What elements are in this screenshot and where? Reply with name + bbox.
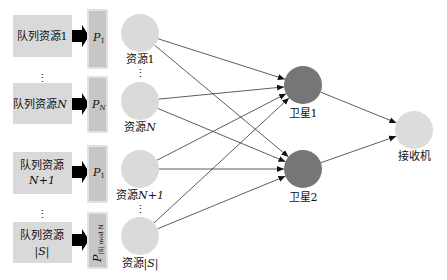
vertical-ellipsis-icon: ⋮: [135, 67, 146, 80]
resource-circle: [121, 150, 159, 188]
edge-s2-to-rx: [321, 136, 396, 162]
queue-label: 队列资源1: [17, 29, 68, 43]
power-box-1: P1: [88, 10, 107, 68]
satellite-label: 卫星2: [289, 191, 318, 204]
resource-ellipsis-1: ⋮: [135, 67, 146, 80]
resource-circle: [121, 14, 159, 52]
resource-node-n: 资源N: [121, 82, 159, 134]
queue-label-line2: N+1: [28, 174, 55, 187]
power-box-n-plus-1: P1: [88, 146, 107, 202]
satellite-node-1: 卫星1: [284, 66, 322, 120]
edges-layer: [154, 39, 397, 229]
satellite-label: 卫星1: [289, 107, 318, 120]
power-box-s: P|S| mod N: [88, 213, 107, 268]
edge-rN-to-s1: [159, 87, 284, 99]
satellite-circle: [284, 150, 322, 188]
arrow-icon: [72, 161, 89, 183]
vertical-ellipsis-icon: ⋮: [135, 203, 146, 216]
resource-circle: [121, 82, 159, 120]
edge-rN1-to-s1: [157, 94, 286, 161]
queue-ellipsis-2: ⋮: [37, 208, 48, 221]
edge-rS-to-s2: [158, 176, 286, 229]
edge-rS-to-s1: [154, 98, 289, 223]
arrow-icon: [72, 93, 89, 115]
arrow-icon: [72, 25, 89, 47]
receiver-circle: [395, 111, 433, 149]
queue-label-line2: |S|: [35, 245, 50, 259]
resource-label: 资源1: [126, 52, 155, 66]
receiver-label: 接收机: [398, 149, 431, 163]
queue-label: 队列资源N: [13, 97, 67, 111]
edge-r1-to-s2: [155, 45, 289, 157]
satellite-node-2: 卫星2: [284, 150, 322, 204]
resource-label: 资源N: [124, 120, 156, 134]
queue-resource-n: 队列资源N: [13, 83, 72, 124]
satellite-circle: [284, 66, 322, 104]
edge-r1-to-s1: [158, 39, 285, 79]
receiver-node: 接收机: [395, 111, 433, 163]
resource-node-s: 资源|S|: [121, 217, 159, 271]
resource-node-n-plus-1: 资源N+1: [116, 150, 164, 202]
queue-label-line1: 队列资源: [20, 158, 64, 172]
queue-label-line1: 队列资源: [20, 228, 64, 242]
satellite-resource-diagram: 队列资源1 ⋮ 队列资源N 队列资源 N+1 ⋮ 队列资源 |S| P1: [0, 0, 447, 280]
power-box-n: PN: [88, 77, 107, 132]
queue-resource-n-plus-1: 队列资源 N+1: [13, 152, 72, 194]
vertical-ellipsis-icon: ⋮: [37, 208, 48, 221]
queue-resource-s: 队列资源 |S|: [13, 222, 72, 263]
resource-label: 资源N+1: [116, 188, 164, 202]
resource-circle: [121, 217, 159, 255]
edge-rN-to-s2: [158, 108, 286, 161]
queue-resource-1: 队列资源1: [13, 15, 72, 57]
resource-node-1: 资源1: [121, 14, 159, 66]
resource-label: 资源|S|: [122, 256, 159, 271]
resource-ellipsis-2: ⋮: [135, 203, 146, 216]
arrow-icon: [72, 229, 89, 251]
edge-s1-to-rx: [321, 92, 397, 123]
